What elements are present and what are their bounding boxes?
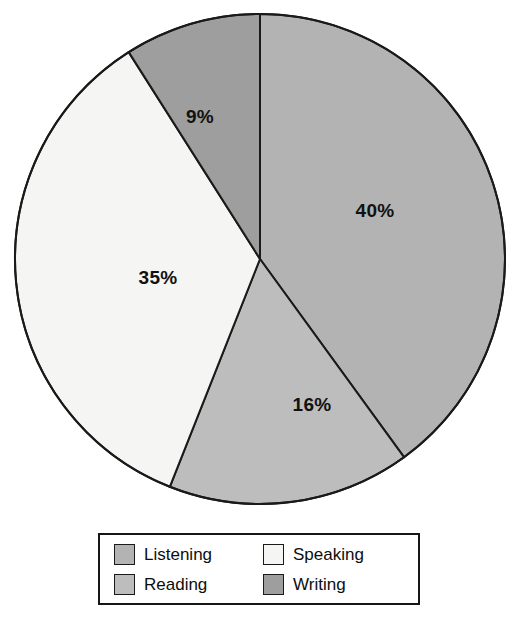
chart-legend: Listening Speaking Reading Writing <box>98 533 420 605</box>
legend-label-reading: Reading <box>144 576 207 593</box>
pie-chart-figure: 40% 16% 35% 9% Listening Speaking Readin… <box>0 0 518 621</box>
legend-swatch-speaking <box>263 544 284 565</box>
legend-swatch-listening <box>114 544 135 565</box>
legend-label-speaking: Speaking <box>293 546 364 563</box>
slice-label-speaking: 35% <box>139 267 178 288</box>
slice-label-listening: 40% <box>356 200 395 221</box>
legend-label-writing: Writing <box>293 576 346 593</box>
slice-label-reading: 16% <box>293 394 332 415</box>
legend-item-reading[interactable]: Reading <box>114 570 263 598</box>
pie-slices <box>15 14 505 504</box>
legend-swatch-writing <box>263 574 284 595</box>
legend-swatch-reading <box>114 574 135 595</box>
legend-item-writing[interactable]: Writing <box>263 570 412 598</box>
legend-label-listening: Listening <box>144 546 212 563</box>
legend-item-listening[interactable]: Listening <box>114 540 263 568</box>
legend-item-speaking[interactable]: Speaking <box>263 540 412 568</box>
pie-svg: 40% 16% 35% 9% <box>0 0 518 518</box>
pie-plot-area: 40% 16% 35% 9% <box>0 0 518 518</box>
slice-label-writing: 9% <box>186 106 214 127</box>
